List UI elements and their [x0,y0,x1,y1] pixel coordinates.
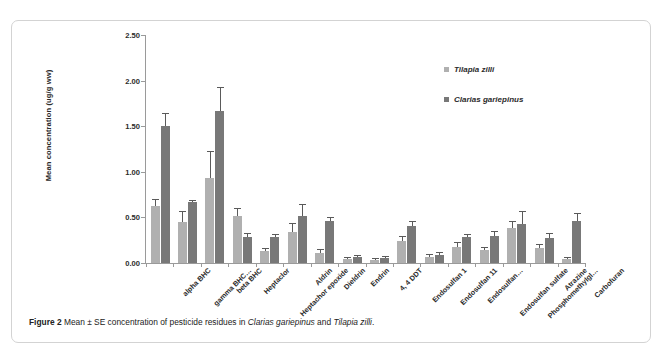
y-axis-tick-label: 0.00 [125,259,140,268]
legend-label: Clarias gariepinus [454,95,523,104]
bar-group [395,35,422,263]
error-bar [467,235,468,238]
error-bar [539,245,540,249]
caption-text-2: and [315,317,334,327]
error-bar [577,214,578,221]
bar-clarias-gariepinus [215,111,224,263]
bar-clarias-gariepinus [435,255,444,263]
x-axis-tick-labels: alpha BHCgamma BHC…beta BHCHeptaclorHept… [146,266,585,314]
x-axis-tick-mark [530,263,531,267]
error-bar [439,253,440,255]
x-axis-tick-label: 4, 4 DDT [398,266,425,293]
caption-species-clarias: Clarias gariepinus [248,317,315,327]
error-bar-cap [509,221,516,222]
error-bar [275,235,276,237]
y-axis-tick-label: 2.50 [125,31,140,40]
bar-clarias-gariepinus [161,126,170,263]
bar-clarias-gariepinus [188,202,197,263]
error-bar-cap [234,208,241,209]
bar-group [176,35,203,263]
figure-frame: Mean concentration (ug/g ww) 0.000.501.0… [11,20,651,343]
error-bar-cap [299,204,306,205]
bar-clarias-gariepinus [298,216,307,263]
caption-figure-number: Figure 2 [29,317,62,327]
y-axis-title: Mean concentration (ug/g ww) [44,46,53,206]
x-axis-tick-mark [338,263,339,267]
figure-caption: Figure 2 Mean ± SE concentration of pest… [29,317,639,328]
caption-text-1: Mean ± SE concentration of pesticide res… [62,317,248,327]
bar-group [560,35,587,263]
bar-tilapia-zilli [151,206,160,263]
x-axis-tick-mark [366,263,367,267]
error-bar-cap [289,223,296,224]
bar-clarias-gariepinus [270,237,279,263]
error-bar-cap [464,234,471,235]
error-bar-cap [272,234,279,235]
error-bar-cap [382,256,389,257]
error-bar [292,224,293,232]
error-bar-cap [262,248,269,249]
error-bar-cap [162,113,169,114]
x-axis-tick-mark [475,263,476,267]
bar-tilapia-zilli [562,259,571,263]
error-bar-cap [327,217,334,218]
y-axis-tick-mark [141,263,145,264]
bar-clarias-gariepinus [490,236,499,263]
bar-tilapia-zilli [397,241,406,263]
bar-group [341,35,368,263]
error-bar [155,200,156,206]
error-bar-cap [546,233,553,234]
x-axis-tick-label: Heptaclor [262,266,292,296]
caption-species-tilapia: Tilapia zilli [333,317,372,327]
error-bar [165,114,166,126]
error-bar [347,258,348,259]
bar-tilapia-zilli [507,228,516,263]
bar-clarias-gariepinus [462,237,471,263]
bar-clarias-gariepinus [545,238,554,263]
chart-legend: Tilapia zilliClarias gariepinus [444,65,523,125]
x-axis-tick-mark [228,263,229,267]
error-bar [412,222,413,226]
error-bar-cap [244,233,251,234]
bar-clarias-gariepinus [517,224,526,263]
error-bar-cap [454,242,461,243]
bar-tilapia-zilli [370,260,379,263]
bar-group [286,35,313,263]
error-bar [549,234,550,239]
chart-area: Mean concentration (ug/g ww) 0.000.501.0… [12,21,652,313]
page-top-faint-strip [0,0,664,12]
error-bar [522,212,523,224]
error-bar [457,243,458,247]
x-axis-tick-mark [283,263,284,267]
bar-group [149,35,176,263]
error-bar-cap [426,254,433,255]
bar-group [368,35,395,263]
error-bar-cap [399,236,406,237]
bar-group [203,35,230,263]
y-axis-tick-mark [141,172,145,173]
error-bar [302,205,303,216]
error-bar [567,258,568,259]
legend-swatch-icon [444,97,449,102]
x-axis-tick-mark [448,263,449,267]
error-bar-cap [409,221,416,222]
y-axis-tick-mark [141,81,145,82]
legend-label: Tilapia zilli [454,65,494,74]
error-bar-cap [536,244,543,245]
x-axis-tick-mark [256,263,257,267]
bar-tilapia-zilli [315,253,324,263]
x-axis-tick-mark [503,263,504,267]
error-bar [220,88,221,111]
bar-tilapia-zilli [178,222,187,263]
bar-tilapia-zilli [480,250,489,263]
y-axis-tick-labels: 0.000.501.001.502.002.50 [104,33,140,263]
error-bar-cap [574,213,581,214]
error-bar [357,256,358,257]
bar-clarias-gariepinus [353,257,362,263]
bar-tilapia-zilli [343,259,352,263]
error-bar-cap [491,231,498,232]
error-bar-cap [354,255,361,256]
bar-group [533,35,560,263]
x-axis-tick-mark [146,263,147,267]
bar-group [231,35,258,263]
